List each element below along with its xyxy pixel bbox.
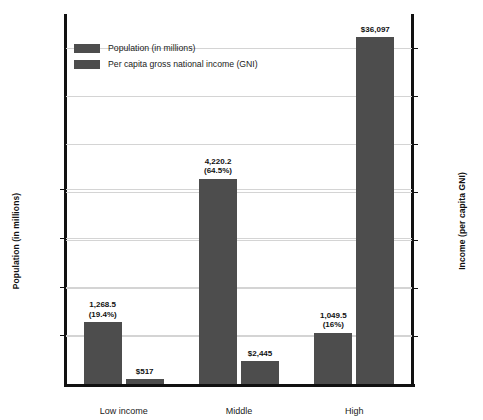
legend-label: Per capita gross national income (GNI) [108,59,258,69]
plot-area: 1,0002,0003,0004,000 5,00010,00015,00020… [66,14,412,386]
bar-label: 1,268.5(19.4%) [70,300,136,319]
left-tick-mark [60,189,64,190]
bar-value-label: $36,097 [342,25,408,35]
legend: Population (in millions) Per capita gros… [74,43,258,75]
right-tick-mark [414,288,418,289]
bar-label: $2,445 [227,349,293,359]
bar-label: $517 [112,367,178,377]
bar-value-label: 1,268.5 [70,300,136,310]
right-axis-spine [411,14,414,386]
right-tick-mark [414,144,418,145]
bar-percent-label: (19.4%) [70,310,136,320]
bar [126,379,164,384]
category-label: Middle [181,406,296,416]
bar-value-label: $517 [112,367,178,377]
bar-value-label: $2,445 [227,349,293,359]
bar-chart: Population (in millions) Income (per cap… [0,0,483,420]
legend-swatch-icon [74,60,100,69]
category-label: Low income [66,406,181,416]
legend-swatch-icon [74,44,100,53]
left-tick-mark [60,238,64,239]
right-tick-mark [414,192,418,193]
legend-label: Population (in millions) [108,43,195,53]
bar [241,361,279,384]
left-tick-mark [60,287,64,288]
right-tick-mark [414,336,418,337]
right-axis-title: Income (per capita GNI) [457,151,467,291]
right-tick-mark [414,240,418,241]
right-tick-mark [414,96,418,97]
bar-label: $36,097 [342,25,408,35]
bar-label: 4,220.2(64.5%) [185,157,251,176]
bar-value-label: 4,220.2 [185,157,251,167]
legend-item-population: Population (in millions) [74,43,258,53]
bar [314,333,352,384]
bar [356,37,394,384]
right-tick-mark [414,48,418,49]
left-axis-title: Population (in millions) [11,171,21,311]
legend-item-gni: Per capita gross national income (GNI) [74,59,258,69]
category-label: High [297,406,412,416]
left-axis-spine [64,14,67,386]
bar-percent-label: (64.5%) [185,166,251,176]
x-axis-baseline [64,384,415,387]
left-tick-mark [60,335,64,336]
